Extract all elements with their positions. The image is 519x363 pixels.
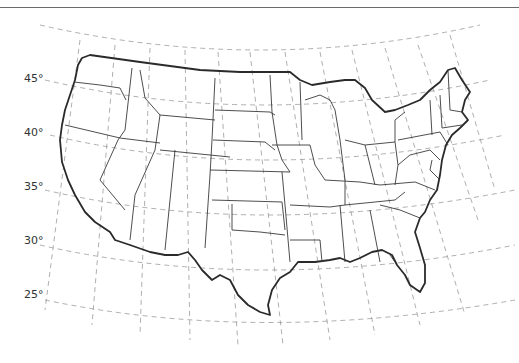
latitude-gridlines (40, 25, 515, 323)
us-national-border (60, 55, 470, 315)
map-canvas (0, 0, 519, 363)
state-borders (65, 68, 462, 262)
us-outline-map: 45° 40° 35° 30° 25° (0, 0, 519, 363)
